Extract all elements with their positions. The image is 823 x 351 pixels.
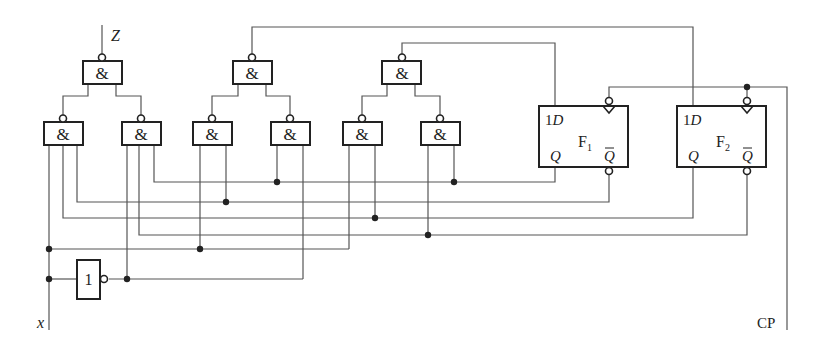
nand-gate-1: & [44, 115, 83, 145]
gate-label: & [433, 125, 446, 144]
q-output-label: Q [550, 148, 561, 164]
output-z-label: Z [111, 27, 121, 44]
flipflop-f1: 1D F1 Q Q [539, 98, 628, 175]
d-input-label: 1D [683, 112, 702, 128]
inverter-label: 1 [85, 271, 93, 288]
input-x-label: x [36, 314, 44, 331]
gate-label: & [283, 125, 296, 144]
nand-gate-5: & [343, 115, 382, 145]
qbar-output-label: Q [604, 148, 615, 164]
nand-gate-2: & [122, 115, 161, 145]
d-input-label: 1D [545, 112, 564, 128]
gate-label: & [134, 125, 147, 144]
nand-gate-6: & [421, 115, 460, 145]
inverter-gate: 1 [77, 260, 108, 299]
gate-label: & [56, 125, 69, 144]
nand-gate-d2: & [233, 54, 272, 84]
nand-gate-d1: & [382, 54, 421, 84]
nand-gate-3: & [193, 115, 232, 145]
nand-gate-output: & [83, 54, 122, 84]
gate-label: & [395, 64, 408, 83]
clock-cp-label: CP [757, 315, 775, 331]
gate-label: & [205, 125, 218, 144]
gate-label: & [95, 64, 108, 83]
junction-dots [46, 84, 750, 282]
gate-label: & [245, 64, 258, 83]
qbar-output-label: Q [742, 148, 753, 164]
gate-label: & [355, 125, 368, 144]
flipflop-f2: 1D F2 Q Q [677, 98, 766, 175]
circuit-diagram: & & & & & & & & & [0, 0, 823, 351]
nand-gate-4: & [271, 115, 310, 145]
q-output-label: Q [688, 148, 699, 164]
